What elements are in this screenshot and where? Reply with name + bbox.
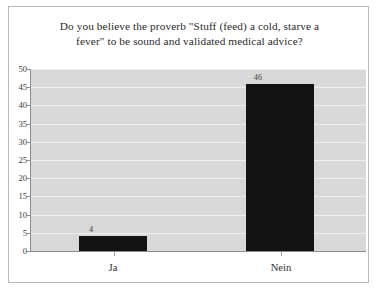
bar-value-nein: 46 [224,73,292,82]
y-axis-line [30,69,31,252]
y-axis-tick-labels: 50454035302520151050 [9,7,27,284]
y-tick-label: 30 [9,138,27,146]
y-tick-label: 40 [9,101,27,109]
gridline [31,124,366,125]
x-category-label-ja: Ja [53,262,173,273]
y-tick-label: 5 [9,229,27,237]
bar-ja[interactable] [79,236,147,251]
y-tick-label: 20 [9,174,27,182]
plot-area [31,69,366,251]
chart-title-line-2: fever" to be sound and validated medical… [19,34,360,49]
gridline [31,160,366,161]
x-tick-mark [281,252,282,256]
chart-title-line-1: Do you believe the proverb "Stuff (feed)… [19,19,360,34]
bar-value-ja: 4 [57,225,125,234]
bar-nein[interactable] [246,84,314,251]
gridline [31,178,366,179]
gridline [31,87,366,88]
x-category-label-nein: Nein [221,262,341,273]
gridline [31,142,366,143]
x-tick-mark [114,252,115,256]
x-axis-line [30,251,366,252]
y-tick-label: 15 [9,192,27,200]
chart-figure: Do you believe the proverb "Stuff (feed)… [8,6,369,283]
y-tick-label: 0 [9,247,27,255]
gridline [31,196,366,197]
gridline [31,105,366,106]
y-tick-label: 10 [9,211,27,219]
gridline [31,215,366,216]
y-tick-label: 25 [9,156,27,164]
chart-title: Do you believe the proverb "Stuff (feed)… [19,19,360,49]
y-tick-label: 50 [9,65,27,73]
y-tick-label: 45 [9,83,27,91]
gridline [31,69,366,70]
y-tick-label: 35 [9,120,27,128]
